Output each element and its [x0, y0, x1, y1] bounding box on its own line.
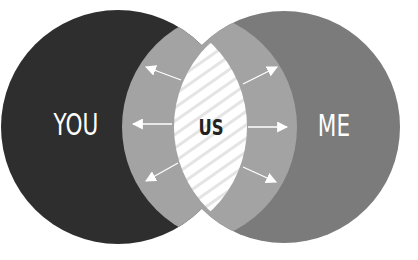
label-me: ME — [318, 108, 350, 142]
venn-diagram: YOU ME US — [0, 0, 418, 260]
label-you: YOU — [53, 107, 99, 141]
label-us: US — [198, 116, 223, 139]
